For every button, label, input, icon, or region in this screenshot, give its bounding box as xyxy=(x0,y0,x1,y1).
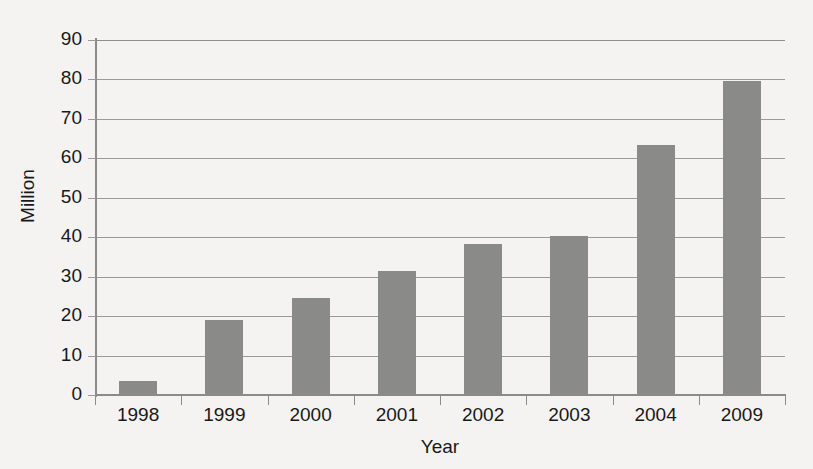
y-tick-label-10: 10 xyxy=(42,344,82,366)
gridline-40 xyxy=(95,237,785,238)
gridline-70 xyxy=(95,119,785,120)
y-axis-tick-labels: 9080706050403020100 xyxy=(20,0,82,469)
x-tick-mark-4 xyxy=(440,396,441,405)
y-tick-mark-50 xyxy=(88,198,96,199)
x-tick-label-1998: 1998 xyxy=(95,404,181,426)
y-tick-label-80: 80 xyxy=(42,67,82,89)
y-tick-mark-40 xyxy=(88,237,96,238)
y-tick-mark-80 xyxy=(88,79,96,80)
bar-2004 xyxy=(637,145,675,395)
gridline-30 xyxy=(95,277,785,278)
bar-2003 xyxy=(550,236,588,395)
y-tick-label-50: 50 xyxy=(42,186,82,208)
y-tick-label-30: 30 xyxy=(42,265,82,287)
gridline-50 xyxy=(95,198,785,199)
x-tick-mark-edge-0 xyxy=(95,396,96,405)
bar-2002 xyxy=(464,244,502,395)
y-tick-mark-90 xyxy=(88,40,96,41)
bar-1998 xyxy=(119,381,157,395)
gridline-90 xyxy=(95,40,785,41)
bar-chart: Million 9080706050403020100 Year 1998199… xyxy=(0,0,813,469)
x-tick-label-2002: 2002 xyxy=(440,404,526,426)
x-tick-label-2003: 2003 xyxy=(526,404,612,426)
plot-area xyxy=(95,40,785,395)
bar-2000 xyxy=(292,298,330,395)
y-tick-label-60: 60 xyxy=(42,146,82,168)
y-tick-label-90: 90 xyxy=(42,28,82,50)
y-tick-label-40: 40 xyxy=(42,225,82,247)
x-tick-mark-3 xyxy=(354,396,355,405)
x-tick-mark-edge-8 xyxy=(785,396,786,405)
chart-page: Million 9080706050403020100 Year 1998199… xyxy=(0,0,813,469)
y-tick-mark-30 xyxy=(88,277,96,278)
x-tick-label-2000: 2000 xyxy=(268,404,354,426)
y-tick-label-70: 70 xyxy=(42,107,82,129)
y-tick-mark-10 xyxy=(88,356,96,357)
x-axis-title: Year xyxy=(95,436,785,458)
x-tick-mark-1 xyxy=(181,396,182,405)
x-tick-mark-2 xyxy=(268,396,269,405)
bar-2009 xyxy=(723,81,761,395)
y-tick-mark-60 xyxy=(88,158,96,159)
gridline-80 xyxy=(95,79,785,80)
y-tick-label-20: 20 xyxy=(42,304,82,326)
x-tick-mark-7 xyxy=(699,396,700,405)
x-tick-mark-6 xyxy=(613,396,614,405)
bar-1999 xyxy=(205,320,243,395)
x-tick-label-2009: 2009 xyxy=(699,404,785,426)
x-tick-mark-5 xyxy=(526,396,527,405)
gridline-20 xyxy=(95,316,785,317)
y-tick-mark-20 xyxy=(88,316,96,317)
y-axis-line xyxy=(95,38,97,397)
gridline-60 xyxy=(95,158,785,159)
gridline-10 xyxy=(95,356,785,357)
x-tick-label-2001: 2001 xyxy=(354,404,440,426)
bar-2001 xyxy=(378,271,416,395)
y-tick-mark-70 xyxy=(88,119,96,120)
y-tick-label-0: 0 xyxy=(42,383,82,405)
x-tick-label-2004: 2004 xyxy=(613,404,699,426)
x-tick-label-1999: 1999 xyxy=(181,404,267,426)
